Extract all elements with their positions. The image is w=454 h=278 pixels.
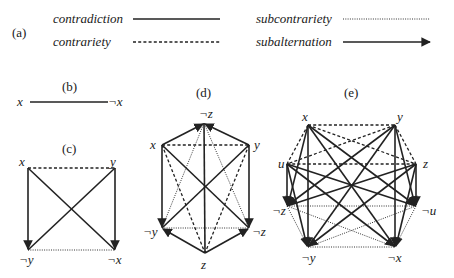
legend-label-subalternation: subalternation <box>256 34 332 49</box>
node-not-x: ¬x <box>107 252 122 267</box>
node-not-z: ¬z <box>272 203 286 218</box>
edge-subcontrariety <box>287 206 308 247</box>
node-not-z-right: ¬z <box>252 224 266 239</box>
node-z: z <box>200 257 206 272</box>
panel-b: (b) x ¬x <box>16 79 123 109</box>
panel-label-b: (b) <box>62 79 77 94</box>
node-not-u: ¬u <box>421 203 437 218</box>
node-x: x <box>301 109 308 124</box>
panel-label-a: (a) <box>12 25 26 40</box>
legend-label-contradiction: contradiction <box>53 11 123 26</box>
edge-contrariety <box>205 145 249 253</box>
node-z: z <box>422 156 428 171</box>
node-x: x <box>16 94 23 109</box>
node-not-y: ¬y <box>19 252 34 267</box>
node-x: x <box>18 154 25 169</box>
edge-contrariety <box>162 145 205 253</box>
edge-subcontrariety <box>287 206 395 247</box>
node-u: u <box>278 156 285 171</box>
node-y: y <box>395 109 403 124</box>
legend-label-subcontrariety: subcontrariety <box>256 11 332 26</box>
panel-label-d: (d) <box>196 85 211 100</box>
node-y: y <box>252 137 260 152</box>
node-not-z-top: ¬z <box>199 106 213 121</box>
edge-subcontrariety <box>308 206 416 247</box>
panel-label-c: (c) <box>62 141 76 156</box>
edge-subcontrariety <box>162 123 204 228</box>
node-x: x <box>149 137 156 152</box>
panel-c: (c) x y ¬y ¬x <box>18 141 122 267</box>
edge-subalternation <box>205 124 249 145</box>
panel-label-e: (e) <box>344 85 358 100</box>
edge-subalternation <box>205 229 248 253</box>
node-not-y: ¬y <box>143 224 158 239</box>
legend-label-contrariety: contrariety <box>53 34 111 49</box>
node-not-x: ¬x <box>108 94 123 109</box>
node-not-y: ¬y <box>301 250 316 265</box>
node-y: y <box>108 154 116 169</box>
node-not-x: ¬x <box>387 250 402 265</box>
logic-diagrams: (a) contradiction contrariety subcontrar… <box>0 0 454 278</box>
panel-d: (d) ¬z x y ¬y ¬z z <box>143 85 266 272</box>
edge-subcontrariety <box>204 123 249 228</box>
edge-contradiction <box>204 123 205 253</box>
edge-subcontrariety <box>395 206 416 247</box>
legend: (a) contradiction contrariety subcontrar… <box>12 11 430 49</box>
panel-e: (e) x y u z ¬z ¬u ¬y ¬x <box>272 85 437 265</box>
edge-subalternation <box>163 229 205 253</box>
